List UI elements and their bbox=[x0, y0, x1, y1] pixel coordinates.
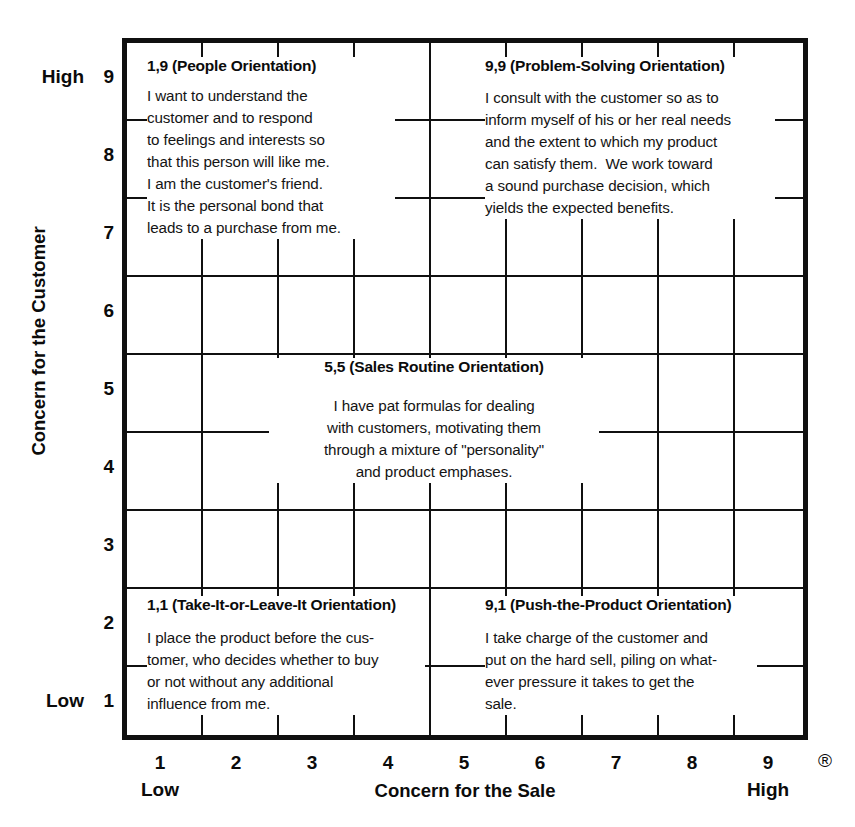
annotation-9-1-label: 9,1 (Push-the-Product Orientation) bbox=[485, 596, 757, 615]
annotation-9-9-label: 9,9 (Problem-Solving Orientation) bbox=[485, 57, 775, 76]
x-tick-3: 3 bbox=[297, 752, 327, 774]
y-tick-2: 2 bbox=[90, 612, 114, 634]
y-axis-low-label: Low bbox=[14, 690, 84, 712]
annotation-line: It is the personal bond that bbox=[147, 195, 395, 217]
annotation-9-9: 9,9 (Problem-Solving Orientation) I cons… bbox=[485, 57, 775, 219]
annotation-line: yields the expected benefits. bbox=[485, 197, 775, 219]
annotation-line: ever pressure it takes to get the bbox=[485, 671, 757, 693]
y-tick-4: 4 bbox=[90, 456, 114, 478]
annotation-line: tomer, who decides whether to buy bbox=[147, 649, 425, 671]
registered-trademark-icon: ® bbox=[818, 750, 832, 772]
annotation-line: sale. bbox=[485, 693, 757, 715]
x-tick-4: 4 bbox=[373, 752, 403, 774]
y-tick-7: 7 bbox=[90, 222, 114, 244]
x-tick-1: 1 bbox=[145, 752, 175, 774]
annotation-1-1-text: I place the product before the cus- tome… bbox=[147, 627, 425, 715]
annotation-line: I consult with the customer so as to bbox=[485, 87, 775, 109]
annotation-1-1-label: 1,1 (Take-It-or-Leave-It Orientation) bbox=[147, 596, 425, 615]
annotation-1-9-text: I want to understand the customer and to… bbox=[147, 85, 395, 239]
annotation-line: put on the hard sell, piling on what- bbox=[485, 649, 757, 671]
annotation-line: I place the product before the cus- bbox=[147, 627, 425, 649]
annotation-line: influence from me. bbox=[147, 693, 425, 715]
y-tick-1: 1 bbox=[90, 690, 114, 712]
x-tick-9: 9 bbox=[753, 752, 783, 774]
x-axis-low-label: Low bbox=[130, 779, 190, 801]
x-tick-8: 8 bbox=[677, 752, 707, 774]
annotation-1-9-label: 1,9 (People Orientation) bbox=[147, 57, 395, 76]
annotation-1-1: 1,1 (Take-It-or-Leave-It Orientation) I … bbox=[147, 596, 425, 715]
grid-hline-7 bbox=[127, 587, 803, 589]
annotation-9-1: 9,1 (Push-the-Product Orientation) I tak… bbox=[485, 596, 757, 715]
annotation-line: that this person will like me. bbox=[147, 151, 395, 173]
annotation-line: customer and to respond bbox=[147, 107, 395, 129]
x-tick-5: 5 bbox=[449, 752, 479, 774]
x-axis-high-label: High bbox=[738, 779, 798, 801]
annotation-line: I want to understand the bbox=[147, 85, 395, 107]
annotation-line: I have pat formulas for dealing bbox=[269, 395, 599, 417]
y-tick-5: 5 bbox=[90, 378, 114, 400]
x-tick-7: 7 bbox=[601, 752, 631, 774]
annotation-line: to feelings and interests so bbox=[147, 129, 395, 151]
annotation-5-5: 5,5 (Sales Routine Orientation) I have p… bbox=[269, 358, 599, 483]
annotation-line: with customers, motivating them bbox=[269, 417, 599, 439]
annotation-9-9-text: I consult with the customer so as to inf… bbox=[485, 87, 775, 219]
annotation-line: I am the customer's friend. bbox=[147, 173, 395, 195]
annotation-9-1-text: I take charge of the customer and put on… bbox=[485, 627, 757, 715]
annotation-line: I take charge of the customer and bbox=[485, 627, 757, 649]
x-tick-2: 2 bbox=[221, 752, 251, 774]
y-axis-title: Concern for the Customer bbox=[28, 196, 50, 486]
grid-hline-4 bbox=[127, 353, 803, 355]
annotation-line: or not without any additional bbox=[147, 671, 425, 693]
x-tick-6: 6 bbox=[525, 752, 555, 774]
y-tick-6: 6 bbox=[90, 300, 114, 322]
x-axis-title: Concern for the Sale bbox=[345, 780, 585, 802]
annotation-line: leads to a purchase from me. bbox=[147, 217, 395, 239]
sales-grid-chart: 1,9 (People Orientation) I want to under… bbox=[122, 38, 808, 740]
y-tick-9: 9 bbox=[90, 66, 114, 88]
annotation-line: through a mixture of "personality" bbox=[269, 439, 599, 461]
grid-hline-6 bbox=[127, 509, 803, 511]
y-tick-8: 8 bbox=[90, 144, 114, 166]
annotation-line: and the extent to which my product bbox=[485, 131, 775, 153]
grid-hline-3 bbox=[127, 275, 803, 277]
annotation-line: a sound purchase decision, which bbox=[485, 175, 775, 197]
annotation-1-9: 1,9 (People Orientation) I want to under… bbox=[147, 57, 395, 239]
annotation-line: and product emphases. bbox=[269, 461, 599, 483]
annotation-line: inform myself of his or her real needs bbox=[485, 109, 775, 131]
y-axis-high-label: High bbox=[14, 66, 84, 88]
annotation-5-5-text: I have pat formulas for dealing with cus… bbox=[269, 395, 599, 483]
annotation-5-5-label: 5,5 (Sales Routine Orientation) bbox=[269, 358, 599, 377]
annotation-line: can satisfy them. We work toward bbox=[485, 153, 775, 175]
y-tick-3: 3 bbox=[90, 534, 114, 556]
